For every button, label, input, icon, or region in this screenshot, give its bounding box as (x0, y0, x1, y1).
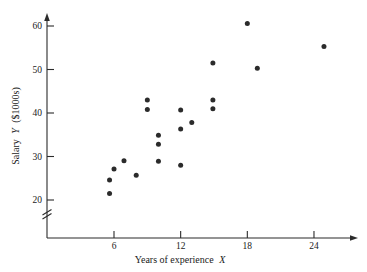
data-point (107, 177, 112, 182)
data-point (255, 66, 260, 71)
data-point (145, 97, 150, 102)
data-point (178, 107, 183, 112)
plot-canvas: 2030405060 6121824 Years of experience X… (0, 0, 367, 272)
y-tick-label-30: 30 (33, 152, 43, 162)
data-point (121, 158, 126, 163)
data-point (210, 60, 215, 65)
data-points-group (107, 21, 326, 196)
data-point (134, 173, 139, 178)
y-tick-label-60: 60 (33, 21, 43, 31)
x-tick-group: 6121824 (112, 231, 319, 251)
x-tick-label-6: 6 (112, 241, 117, 251)
data-point (156, 142, 161, 147)
data-point (210, 106, 215, 111)
x-tick-label-24: 24 (309, 241, 319, 251)
data-point (145, 107, 150, 112)
data-point (178, 127, 183, 132)
x-axis-arrowhead (350, 235, 358, 241)
data-point (156, 159, 161, 164)
data-point (156, 133, 161, 138)
y-axis (43, 13, 52, 238)
data-point (189, 120, 194, 125)
data-point (321, 44, 326, 49)
y-tick-label-20: 20 (33, 195, 43, 205)
x-tick-label-18: 18 (243, 241, 253, 251)
y-tick-label-40: 40 (33, 108, 43, 118)
y-tick-group: 2030405060 (33, 21, 55, 205)
data-point (107, 191, 112, 196)
y-tick-label-50: 50 (33, 65, 43, 75)
x-axis (47, 235, 358, 241)
x-axis-title: Years of experience X (135, 254, 226, 265)
x-tick-label-12: 12 (176, 241, 186, 251)
y-axis-arrowhead (44, 13, 50, 21)
y-axis-title: Salary Y ($1000s) (10, 87, 22, 165)
data-point (178, 163, 183, 168)
data-point (210, 97, 215, 102)
data-point (112, 167, 117, 172)
data-point (245, 21, 250, 26)
scatter-plot-figure: 2030405060 6121824 Years of experience X… (0, 0, 367, 272)
